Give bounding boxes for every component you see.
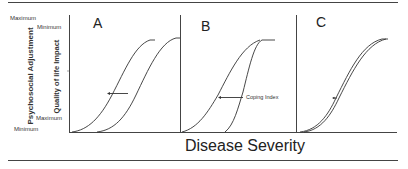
coping-index-label: Coping Index (246, 94, 278, 100)
arrowhead-icon (107, 92, 110, 95)
panel-a-curve-adjustment (72, 40, 155, 132)
arrowhead-icon (218, 96, 221, 99)
inner-axis-label: Quality of life Impact (52, 29, 61, 125)
panel-b-curve-qol (225, 40, 275, 132)
panel-a-curve-qol (97, 38, 180, 132)
x-axis-label: Disease Severity (185, 137, 305, 155)
panel-c-curve-qol (304, 39, 388, 132)
panel-c-label: C (316, 14, 326, 30)
outer-axis-label: Psychosocial Adjustment (26, 29, 35, 125)
panel-c-curve-adjustment (300, 39, 386, 132)
outer-max-label: Maximum (10, 15, 36, 21)
arrowhead-icon (332, 97, 335, 99)
panel-b-label: B (201, 18, 210, 34)
outer-min-label: Minimum (14, 126, 38, 132)
panel-a-label: A (93, 15, 102, 31)
panel-b-curve-adjustment (182, 40, 260, 132)
